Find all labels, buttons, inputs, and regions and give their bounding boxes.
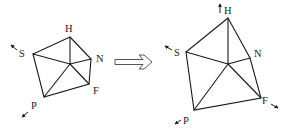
- motion-arrow-s-icon: [165, 46, 172, 50]
- label-n: N: [96, 53, 104, 64]
- motion-arrow-s-icon: [11, 45, 17, 50]
- label-s: S: [19, 48, 25, 59]
- label-p: P: [183, 115, 189, 126]
- after-diagram: H S N F P: [165, 4, 278, 126]
- label-f: F: [93, 85, 99, 96]
- label-h: H: [65, 23, 73, 34]
- label-h: H: [224, 5, 232, 16]
- label-p: P: [31, 100, 37, 111]
- before-diagram: H S N F P: [11, 23, 104, 117]
- motion-arrow-p-icon: [175, 120, 181, 124]
- before-edges: [33, 37, 91, 97]
- label-n: N: [254, 48, 262, 59]
- label-f: F: [262, 95, 268, 106]
- transition-arrow-icon: [115, 55, 152, 69]
- motion-arrow-f-icon: [271, 104, 278, 108]
- diagram-canvas: H S N F P H S N F P: [0, 0, 282, 129]
- label-s: S: [174, 47, 180, 58]
- after-edges: [186, 18, 261, 110]
- motion-arrow-p-icon: [22, 112, 28, 117]
